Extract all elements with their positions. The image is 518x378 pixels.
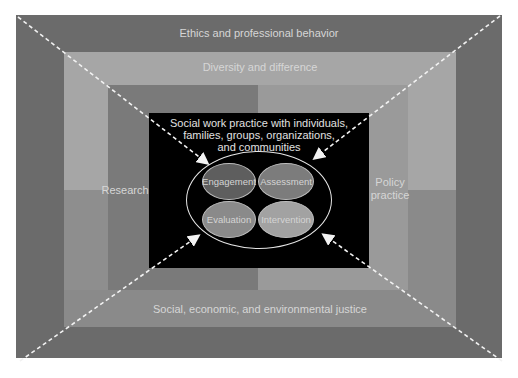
arrow-bottom-left (20, 236, 198, 361)
arrow-top-left (18, 17, 207, 163)
arrow-top-right (315, 16, 500, 158)
arrow-bottom-right (324, 235, 502, 361)
dashed-arrows (0, 0, 518, 378)
